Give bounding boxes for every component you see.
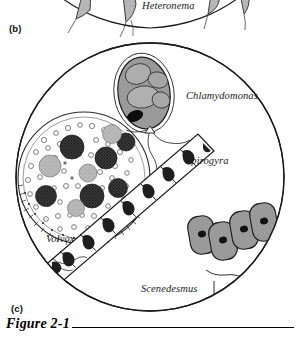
label-scenedesmus: Scenedesmus bbox=[141, 283, 198, 294]
label-heteronema: Heteronema bbox=[142, 0, 195, 11]
label-spirogyra: Spirogyra bbox=[186, 155, 229, 166]
panel-c-field bbox=[16, 43, 284, 311]
label-volvox: Volvox bbox=[46, 233, 75, 244]
label-chlamydomonas: Chlamydomonas bbox=[186, 90, 258, 101]
heteronema-organism bbox=[238, 0, 249, 30]
panel-c-letter: (c) bbox=[11, 303, 23, 314]
caption-rule bbox=[72, 327, 294, 328]
figure-caption: Figure 2-1 bbox=[6, 316, 70, 332]
figure-page: (b) Heteronema Chlamydomonas Spirogyra V… bbox=[0, 0, 300, 337]
panel-b-letter: (b) bbox=[9, 23, 22, 34]
